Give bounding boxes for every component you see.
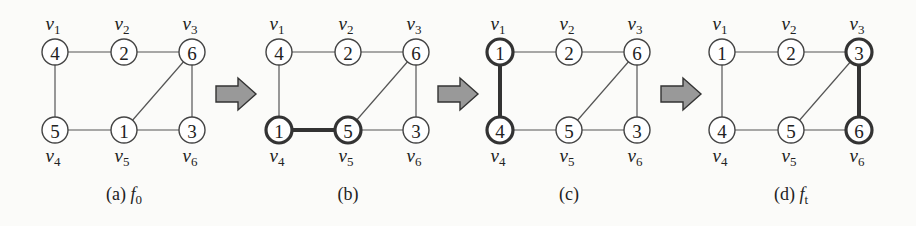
vertex-label: v3 bbox=[407, 13, 422, 37]
vertex-label: v6 bbox=[628, 145, 643, 169]
node-value: 3 bbox=[632, 121, 642, 142]
node-v5: 1v5 bbox=[111, 117, 137, 169]
node-v5: 5v5 bbox=[556, 117, 582, 169]
node-value: 2 bbox=[343, 43, 353, 64]
node-value: 2 bbox=[786, 43, 796, 64]
node-value: 1 bbox=[119, 121, 129, 142]
vertex-label: v4 bbox=[713, 145, 728, 169]
node-v3: 6v3 bbox=[403, 13, 429, 65]
node-value: 4 bbox=[495, 121, 505, 142]
node-value: 5 bbox=[786, 121, 796, 142]
panel-d: 1v12v23v34v45v56v6(d) ft bbox=[709, 13, 872, 207]
node-value: 4 bbox=[50, 43, 60, 64]
vertex-label: v2 bbox=[560, 13, 575, 37]
node-v1: 4v1 bbox=[266, 13, 292, 65]
vertex-label: v4 bbox=[491, 145, 506, 169]
node-v6: 3v6 bbox=[179, 117, 205, 169]
vertex-label: v2 bbox=[115, 13, 130, 37]
node-value: 2 bbox=[119, 43, 129, 64]
node-value: 1 bbox=[274, 121, 284, 142]
node-v4: 4v4 bbox=[709, 117, 735, 169]
node-value: 3 bbox=[854, 43, 864, 64]
node-value: 1 bbox=[495, 43, 505, 64]
node-v4: 5v4 bbox=[42, 117, 68, 169]
right-arrow-c-d-icon bbox=[661, 78, 701, 110]
panel-b: 4v12v26v31v45v53v6(b) bbox=[266, 13, 429, 205]
figure-svg: 4v12v26v35v41v53v6(a) f04v12v26v31v45v53… bbox=[0, 0, 916, 226]
node-v2: 2v2 bbox=[556, 13, 582, 65]
vertex-label: v5 bbox=[560, 145, 575, 169]
node-value: 6 bbox=[854, 121, 864, 142]
node-v3: 3v3 bbox=[846, 13, 872, 65]
vertex-label: v3 bbox=[850, 13, 865, 37]
node-v3: 6v3 bbox=[179, 13, 205, 65]
vertex-label: v4 bbox=[46, 145, 61, 169]
vertex-label: v3 bbox=[183, 13, 198, 37]
node-v4: 1v4 bbox=[266, 117, 292, 169]
panel-caption: (b) bbox=[338, 184, 359, 205]
node-value: 3 bbox=[187, 121, 197, 142]
node-value: 5 bbox=[50, 121, 60, 142]
node-v6: 6v6 bbox=[846, 117, 872, 169]
vertex-label: v5 bbox=[339, 145, 354, 169]
node-value: 6 bbox=[411, 43, 421, 64]
edge-v5-v3 bbox=[791, 52, 859, 130]
node-value: 1 bbox=[717, 43, 727, 64]
node-value: 5 bbox=[564, 121, 574, 142]
node-value: 3 bbox=[411, 121, 421, 142]
right-arrow-a-b-icon bbox=[216, 78, 256, 110]
panel-c: 1v12v26v34v45v53v6(c) bbox=[487, 13, 650, 205]
vertex-label: v6 bbox=[407, 145, 422, 169]
node-value: 6 bbox=[187, 43, 197, 64]
node-v2: 2v2 bbox=[335, 13, 361, 65]
vertex-label: v6 bbox=[183, 145, 198, 169]
node-v6: 3v6 bbox=[403, 117, 429, 169]
graph-swap-figure: 4v12v26v35v41v53v6(a) f04v12v26v31v45v53… bbox=[0, 0, 916, 226]
vertex-label: v1 bbox=[713, 13, 728, 37]
node-v3: 6v3 bbox=[624, 13, 650, 65]
edge-v5-v3 bbox=[124, 52, 192, 130]
node-v1: 1v1 bbox=[709, 13, 735, 65]
panel-a: 4v12v26v35v41v53v6(a) f0 bbox=[42, 13, 205, 207]
vertex-label: v6 bbox=[850, 145, 865, 169]
vertex-label: v1 bbox=[46, 13, 61, 37]
panel-caption: (d) ft bbox=[774, 184, 809, 207]
vertex-label: v5 bbox=[782, 145, 797, 169]
panel-caption: (c) bbox=[559, 184, 579, 205]
node-v2: 2v2 bbox=[111, 13, 137, 65]
node-v4: 4v4 bbox=[487, 117, 513, 169]
right-arrow-b-c-icon bbox=[438, 78, 478, 110]
edge-v5-v3 bbox=[569, 52, 637, 130]
vertex-label: v1 bbox=[270, 13, 285, 37]
vertex-label: v2 bbox=[339, 13, 354, 37]
vertex-label: v1 bbox=[491, 13, 506, 37]
vertex-label: v2 bbox=[782, 13, 797, 37]
node-value: 6 bbox=[632, 43, 642, 64]
panel-caption: (a) f0 bbox=[106, 184, 142, 207]
vertex-label: v3 bbox=[628, 13, 643, 37]
node-v1: 1v1 bbox=[487, 13, 513, 65]
node-v1: 4v1 bbox=[42, 13, 68, 65]
node-value: 5 bbox=[343, 121, 353, 142]
edge-v5-v3 bbox=[348, 52, 416, 130]
vertex-label: v5 bbox=[115, 145, 130, 169]
node-value: 4 bbox=[274, 43, 284, 64]
node-v5: 5v5 bbox=[335, 117, 361, 169]
node-value: 2 bbox=[564, 43, 574, 64]
node-v2: 2v2 bbox=[778, 13, 804, 65]
vertex-label: v4 bbox=[270, 145, 285, 169]
node-v5: 5v5 bbox=[778, 117, 804, 169]
node-v6: 3v6 bbox=[624, 117, 650, 169]
node-value: 4 bbox=[717, 121, 727, 142]
